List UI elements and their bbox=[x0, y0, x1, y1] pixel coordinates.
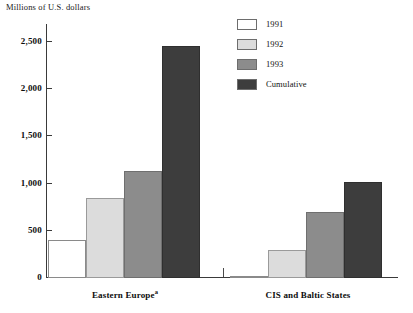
bar-chart: Millions of U.S. dollars 2,500 2,000 1,5… bbox=[0, 0, 413, 313]
legend-label-cumulative: Cumulative bbox=[266, 79, 307, 89]
legend-label-1993: 1993 bbox=[266, 59, 283, 69]
chart-legend: 1991 1992 1993 Cumulative bbox=[237, 14, 367, 94]
bar-eastern-europe-1992 bbox=[86, 198, 124, 278]
category-label-cis-baltic: CIS and Baltic States bbox=[228, 290, 388, 300]
legend-label-1992: 1992 bbox=[266, 39, 283, 49]
legend-item-1992: 1992 bbox=[237, 34, 367, 54]
chart-axis-title: Millions of U.S. dollars bbox=[6, 2, 90, 12]
legend-label-1991: 1991 bbox=[266, 19, 283, 29]
category-label-cis-baltic-text: CIS and Baltic States bbox=[266, 290, 351, 300]
bar-cis-baltic-1993 bbox=[306, 212, 344, 278]
bar-eastern-europe-1993 bbox=[124, 171, 162, 278]
category-label-eastern-europe: Eastern Europea bbox=[48, 290, 202, 300]
bar-eastern-europe-1991 bbox=[48, 240, 86, 278]
category-label-eastern-europe-text: Eastern Europe bbox=[92, 290, 155, 300]
legend-item-1993: 1993 bbox=[237, 54, 367, 74]
legend-swatch-1993 bbox=[237, 59, 257, 70]
bar-eastern-europe-cumulative bbox=[162, 46, 200, 278]
legend-item-cumulative: Cumulative bbox=[237, 74, 367, 94]
y-tick-label-2000: 2,000 bbox=[0, 83, 42, 93]
y-tick-label-0: 0 bbox=[0, 272, 42, 282]
legend-swatch-1991 bbox=[237, 19, 257, 30]
bar-cis-baltic-1991 bbox=[230, 276, 268, 278]
legend-item-1991: 1991 bbox=[237, 14, 367, 34]
bar-cis-baltic-cumulative bbox=[344, 182, 382, 278]
y-tick-label-2500: 2,500 bbox=[0, 36, 42, 46]
y-tick-label-1000: 1,000 bbox=[0, 178, 42, 188]
bar-cis-baltic-1992 bbox=[268, 250, 306, 278]
legend-swatch-cumulative bbox=[237, 79, 257, 90]
group-separator-tick bbox=[223, 268, 224, 277]
footnote-marker-a: a bbox=[155, 288, 158, 295]
y-tick-label-1500: 1,500 bbox=[0, 130, 42, 140]
legend-swatch-1992 bbox=[237, 39, 257, 50]
y-tick-label-500: 500 bbox=[0, 225, 42, 235]
